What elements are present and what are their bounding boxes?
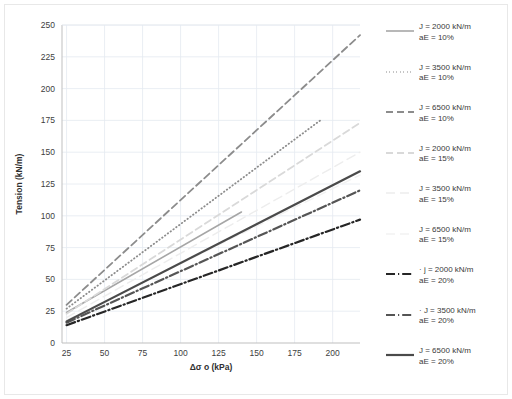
legend-label-line2-6: aE = 20% [419, 276, 473, 287]
x-tick-label: 150 [250, 348, 264, 358]
legend-label-line1-3: J = 2000 kN/m [419, 144, 471, 155]
y-tick-label: 225 [41, 52, 55, 62]
line-chart-svg: 0255075100125150175200225250255075100125… [0, 0, 380, 399]
legend-swatch-6 [385, 266, 415, 278]
legend-label-2: J = 6500 kN/maE = 10% [419, 103, 471, 124]
legend-item-5[interactable]: J = 6500 kN/maE = 15% [385, 225, 471, 246]
legend-label-4: J = 3500 kN/maE = 15% [419, 184, 471, 205]
x-axis-title: Δσ o (kPa) [190, 362, 233, 372]
legend-swatch-5 [385, 226, 415, 238]
legend-swatch-7 [385, 307, 415, 319]
x-tick-label: 75 [138, 348, 148, 358]
legend-label-line1-1: J = 3500 kN/m [419, 63, 471, 74]
y-tick-label: 200 [41, 84, 55, 94]
legend-label-3: J = 2000 kN/maE = 15% [419, 144, 471, 165]
x-tick-label: 125 [212, 348, 226, 358]
y-tick-label: 175 [41, 115, 55, 125]
legend-label-line1-0: J = 2000 kN/m [419, 22, 471, 33]
x-tick-label: 50 [100, 348, 110, 358]
legend-item-2[interactable]: J = 6500 kN/maE = 10% [385, 103, 471, 124]
legend-label-line2-1: aE = 10% [419, 73, 471, 84]
y-tick-label: 100 [41, 211, 55, 221]
x-tick-label: 200 [326, 348, 340, 358]
legend-label-line1-5: J = 6500 kN/m [419, 225, 471, 236]
legend-item-6[interactable]: · j = 2000 kN/maE = 20% [385, 265, 473, 286]
legend-label-line2-8: aE = 20% [419, 357, 471, 368]
y-tick-label: 50 [46, 274, 56, 284]
legend-label-line2-4: aE = 15% [419, 195, 471, 206]
legend-swatch-4 [385, 185, 415, 197]
legend-swatch-8 [385, 347, 415, 359]
legend-swatch-2 [385, 104, 415, 116]
legend-item-7[interactable]: · J = 3500 kN/maE = 20% [385, 306, 476, 327]
legend-label-5: J = 6500 kN/maE = 15% [419, 225, 471, 246]
legend-label-8: J = 6500 kN/maE = 20% [419, 346, 471, 367]
legend-item-1[interactable]: J = 3500 kN/maE = 10% [385, 63, 471, 84]
legend-label-1: J = 3500 kN/maE = 10% [419, 63, 471, 84]
x-tick-label: 175 [288, 348, 302, 358]
legend-label-line2-0: aE = 10% [419, 33, 471, 44]
x-tick-label: 100 [173, 348, 187, 358]
chart-screenshot: 0255075100125150175200225250255075100125… [0, 0, 512, 399]
legend-item-4[interactable]: J = 3500 kN/maE = 15% [385, 184, 471, 205]
y-tick-label: 25 [46, 306, 56, 316]
y-tick-label: 0 [50, 338, 55, 348]
legend-label-line1-2: J = 6500 kN/m [419, 103, 471, 114]
legend-label-line2-2: aE = 10% [419, 114, 471, 125]
legend-swatch-0 [385, 23, 415, 35]
legend-label-6: · j = 2000 kN/maE = 20% [419, 265, 473, 286]
legend-swatch-3 [385, 145, 415, 157]
legend-label-line2-7: aE = 20% [419, 316, 476, 327]
legend-swatch-1 [385, 64, 415, 76]
x-tick-label: 25 [62, 348, 72, 358]
legend-label-7: · J = 3500 kN/maE = 20% [419, 306, 476, 327]
y-tick-label: 75 [46, 243, 56, 253]
legend-item-3[interactable]: J = 2000 kN/maE = 15% [385, 144, 471, 165]
y-tick-label: 125 [41, 179, 55, 189]
legend-item-8[interactable]: J = 6500 kN/maE = 20% [385, 346, 471, 367]
legend-label-line1-6: · j = 2000 kN/m [419, 265, 473, 276]
plot-area-container: 0255075100125150175200225250255075100125… [0, 0, 380, 399]
y-tick-label: 150 [41, 147, 55, 157]
legend-item-0[interactable]: J = 2000 kN/maE = 10% [385, 22, 471, 43]
legend-label-0: J = 2000 kN/maE = 10% [419, 22, 471, 43]
legend-label-line1-7: · J = 3500 kN/m [419, 306, 476, 317]
legend-label-line2-5: aE = 15% [419, 235, 471, 246]
legend-label-line2-3: aE = 15% [419, 154, 471, 165]
legend-label-line1-8: J = 6500 kN/m [419, 346, 471, 357]
legend-label-line1-4: J = 3500 kN/m [419, 184, 471, 195]
y-tick-label: 250 [41, 20, 55, 30]
chart-legend: J = 2000 kN/maE = 10%J = 3500 kN/maE = 1… [385, 18, 510, 388]
y-axis-title: Tension (kN/m) [14, 153, 24, 214]
